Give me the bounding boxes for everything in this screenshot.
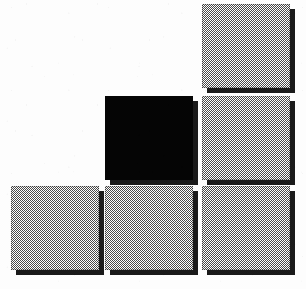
square-bottom-center bbox=[105, 186, 193, 270]
square-middle-center-black bbox=[105, 96, 193, 180]
square-face bbox=[202, 96, 290, 180]
square-face bbox=[105, 186, 193, 270]
image-canvas bbox=[0, 0, 306, 289]
square-top-right bbox=[202, 4, 290, 88]
square-face bbox=[11, 186, 99, 270]
square-face bbox=[105, 96, 193, 180]
square-bottom-left bbox=[11, 186, 99, 270]
square-middle-right bbox=[202, 96, 290, 180]
square-face bbox=[202, 186, 290, 270]
square-bottom-right bbox=[202, 186, 290, 270]
square-face bbox=[202, 4, 290, 88]
